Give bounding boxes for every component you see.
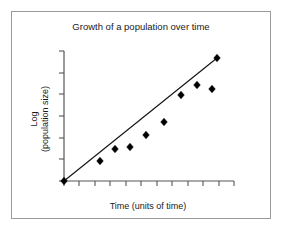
y-axis-label-line2: (population size) (40, 86, 50, 152)
data-point (209, 85, 216, 93)
chart-title: Growth of a population over time (72, 21, 209, 32)
figure-frame: Growth of a population over time Log (po… (11, 11, 271, 219)
x-axis-ticks (64, 181, 234, 186)
y-axis-ticks (59, 51, 64, 181)
data-point (143, 131, 150, 139)
data-point (214, 54, 221, 62)
y-axis-label-line1: Log (29, 111, 39, 126)
data-point (161, 118, 168, 126)
x-axis-label: Time (units of time) (110, 201, 187, 211)
data-point (112, 145, 119, 153)
data-point (194, 81, 201, 89)
y-axis-label: Log (population size) (29, 86, 50, 152)
data-point (178, 91, 185, 99)
data-point (97, 157, 104, 165)
chart-canvas: Growth of a population over time Log (po… (12, 12, 270, 218)
data-point (61, 177, 68, 185)
trend-line (64, 58, 217, 181)
data-point (127, 143, 134, 151)
